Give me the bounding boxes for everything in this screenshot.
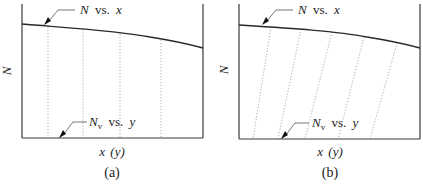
svg-text:N vs. x: N vs. x	[79, 2, 122, 17]
y-axis-label: N	[0, 65, 14, 76]
bottom-callout: Nv vs. y	[59, 114, 135, 138]
svg-text:Nv vs. y: Nv vs. y	[311, 115, 358, 133]
panel-a: N vs. x Nv vs. y N x (y) (a)	[0, 2, 203, 181]
arrow-icon	[262, 17, 269, 25]
arrow-icon	[44, 17, 51, 25]
panel-caption: (a)	[104, 165, 120, 181]
n-vs-x-curve	[22, 24, 203, 48]
bottom-callout: Nv vs. y	[281, 115, 358, 139]
x-axis-label: x (y)	[316, 144, 342, 159]
x-axis-label: x (y)	[98, 144, 124, 159]
y-axis-label: N	[216, 64, 231, 75]
panel-caption: (b)	[322, 165, 339, 181]
n-vs-x-curve	[239, 25, 420, 48]
top-callout: N vs. x	[44, 2, 122, 25]
panel-b: N vs. x Nv vs. y N x (y) (b)	[216, 2, 420, 181]
top-callout: N vs. x	[262, 2, 340, 25]
figure: N vs. x Nv vs. y N x (y) (a)	[0, 0, 423, 185]
svg-text:N vs. x: N vs. x	[297, 2, 340, 17]
arrow-icon	[281, 131, 288, 139]
arrow-icon	[59, 130, 66, 138]
svg-text:Nv vs. y: Nv vs. y	[88, 114, 135, 132]
